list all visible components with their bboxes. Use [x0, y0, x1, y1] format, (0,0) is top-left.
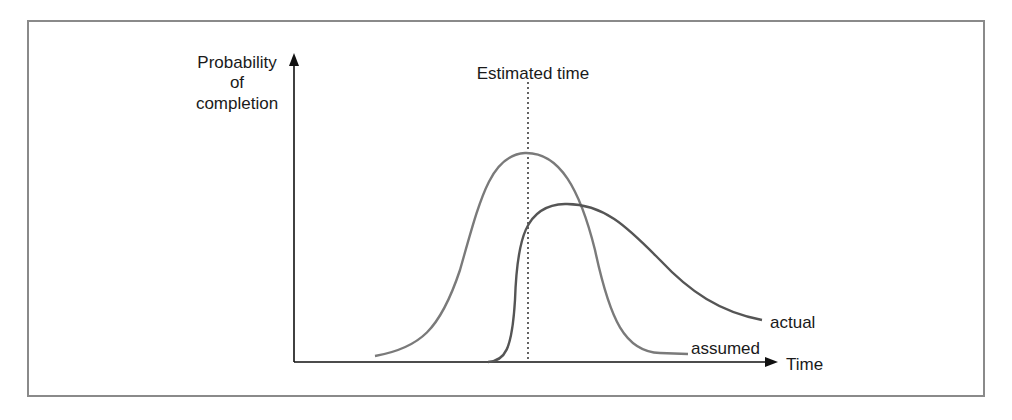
- assumed-label: assumed: [691, 339, 760, 358]
- y-axis-label-line1: Probability: [197, 53, 277, 72]
- x-axis-label: Time: [786, 355, 823, 374]
- x-axis-arrow-icon: [765, 357, 778, 367]
- y-axis-arrow-icon: [289, 53, 299, 66]
- assumed-curve: [375, 153, 688, 356]
- probability-diagram: Probability of completion Estimated time…: [0, 0, 1012, 420]
- y-axis-label-line2: of: [230, 73, 244, 92]
- y-axis-label-line3: completion: [196, 94, 278, 113]
- estimated-time-label: Estimated time: [477, 64, 589, 83]
- actual-label: actual: [770, 313, 815, 332]
